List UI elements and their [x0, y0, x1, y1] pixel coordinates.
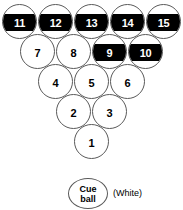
ball-number: 13	[75, 16, 108, 30]
ball-number: 7	[21, 46, 54, 60]
legend-line: Stripe	[0, 137, 30, 146]
ball-number: 9	[93, 46, 126, 60]
cue-ball-label-line1: Cue	[69, 184, 107, 194]
ball-number: 8	[57, 46, 90, 60]
ball-15: 15	[146, 4, 181, 39]
legend-line: Stripe	[0, 153, 30, 162]
cue-ball: Cue ball	[68, 178, 108, 209]
ball-number: 10	[129, 46, 162, 60]
ball-number: 3	[93, 106, 126, 120]
ball-1: 1	[74, 124, 109, 159]
legend-line: Stripe	[0, 171, 30, 180]
ball-number: 15	[147, 16, 180, 30]
ball-10: 10	[128, 34, 163, 69]
billiard-rack-diagram: 11 12 13 14 15 7 8 9 10	[0, 0, 183, 210]
ball-number: 6	[111, 76, 144, 90]
ball-number: 1	[75, 136, 108, 150]
ball-number: 5	[75, 76, 108, 90]
ball-number: 14	[111, 16, 144, 30]
ball-number: 12	[39, 16, 72, 30]
cue-ball-color-label: (White)	[113, 188, 142, 198]
legend: Stripe Stripe Stripe Stripe Stripe	[0, 128, 30, 187]
ball-3: 3	[92, 94, 127, 129]
cue-ball-label-line2: ball	[69, 194, 107, 204]
ball-number: 11	[3, 16, 36, 30]
ball-number: 4	[39, 76, 72, 90]
legend-line: Stripe	[0, 128, 30, 137]
legend-line: Stripe	[0, 162, 30, 171]
legend-group-stripes-upper: Stripe Stripe	[0, 128, 30, 146]
ball-number: 2	[57, 106, 90, 120]
legend-group-stripes-lower: Stripe Stripe Stripe	[0, 153, 30, 180]
ball-6: 6	[110, 64, 145, 99]
